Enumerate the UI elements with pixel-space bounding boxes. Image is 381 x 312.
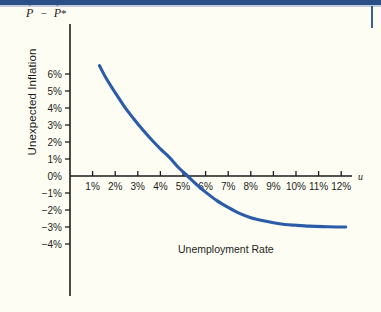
y-tick-label: 1% (48, 154, 63, 165)
x-tick-label: 2% (108, 181, 123, 192)
y-tick-label: −1% (42, 188, 62, 199)
y-tick-group: 6%5%4%3%2%1%0%−1%−2%−3%−4% (42, 69, 70, 250)
y-tick-label: 3% (48, 120, 63, 131)
y-tick-label: 0% (48, 171, 63, 182)
x-tick-label: 7% (221, 181, 236, 192)
x-tick-label: 9% (266, 181, 281, 192)
x-tick-label: 4% (153, 181, 168, 192)
x-tick-label: 3% (131, 181, 146, 192)
x-tick-group: 1%2%3%4%5%6%7%8%9%10%11%12% (85, 171, 351, 192)
y-tick-label: 5% (48, 86, 63, 97)
y-tick-label: −2% (42, 205, 62, 216)
x-axis-variable-label: u (358, 171, 363, 182)
x-tick-label: 12% (331, 181, 351, 192)
x-tick-label: 1% (85, 181, 100, 192)
x-tick-label: 5% (176, 181, 191, 192)
phillips-curve-line (99, 66, 345, 228)
phillips-curve-figure: ·P − ·P* Unexpected Inflation 6%5%4%3%2%… (0, 0, 381, 312)
x-tick-label: 10% (286, 181, 306, 192)
x-tick-label: 8% (244, 181, 259, 192)
plot-area: 6%5%4%3%2%1%0%−1%−2%−3%−4% 1%2%3%4%5%6%7… (0, 0, 381, 312)
y-tick-label: −4% (42, 239, 62, 250)
y-tick-label: 6% (48, 69, 63, 80)
y-tick-label: −3% (42, 222, 62, 233)
x-axis-title: Unemployment Rate (178, 243, 274, 255)
y-tick-label: 4% (48, 103, 63, 114)
x-tick-label: 11% (309, 181, 328, 192)
y-tick-label: 2% (48, 137, 63, 148)
